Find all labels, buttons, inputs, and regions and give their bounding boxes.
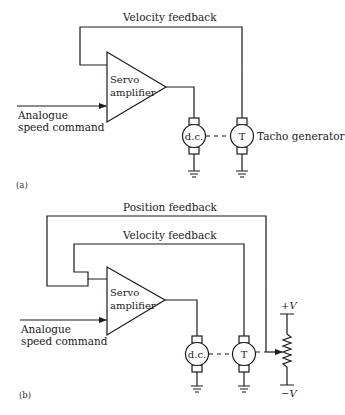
panel-b: Position feedback Velocity feedback Serv… [19, 201, 298, 400]
input-label-line2: speed command [21, 335, 108, 347]
ground-icon [191, 372, 203, 392]
panel-b-tag: (b) [19, 390, 31, 400]
tacho-caption: Tacho generator [257, 130, 345, 142]
amplifier-output-wire [166, 87, 194, 118]
amplifier-label-line1: Servo [110, 287, 139, 298]
position-feedback-label: Position feedback [123, 201, 218, 213]
servo-diagram: Velocity feedback Servo amplifier Analog… [0, 0, 345, 415]
panel-a: Velocity feedback Servo amplifier Analog… [16, 11, 345, 190]
velocity-feedback-label: Velocity feedback [122, 229, 217, 241]
velocity-feedback-wire [74, 244, 244, 336]
dc-motor: d.c. [186, 336, 209, 372]
amplifier-label-line2: amplifier [110, 87, 156, 98]
tacho-generator: T [233, 336, 256, 372]
dc-motor: d.c. [183, 118, 206, 154]
input-label-line1: Analogue [17, 109, 68, 121]
input-label-line2: speed command [18, 121, 105, 133]
tacho-label: T [239, 131, 246, 142]
velocity-feedback-label: Velocity feedback [122, 11, 217, 23]
ground-icon [238, 372, 250, 392]
ground-icon [236, 154, 248, 177]
motor-label: d.c. [188, 349, 206, 360]
tacho-label: T [241, 349, 248, 360]
velocity-feedback-wire [80, 27, 242, 118]
ground-icon [188, 154, 200, 177]
tacho-generator: T [231, 118, 254, 154]
amplifier-label-line2: amplifier [110, 300, 156, 311]
potentiometer [280, 314, 294, 385]
pot-minus-v-label: −V [281, 388, 298, 399]
motor-label: d.c. [185, 131, 203, 142]
input-label-line1: Analogue [20, 323, 71, 335]
panel-a-tag: (a) [16, 180, 28, 190]
pot-plus-v-label: +V [281, 300, 298, 311]
amplifier-output-wire [165, 300, 197, 336]
amplifier-label-line1: Servo [110, 74, 139, 85]
